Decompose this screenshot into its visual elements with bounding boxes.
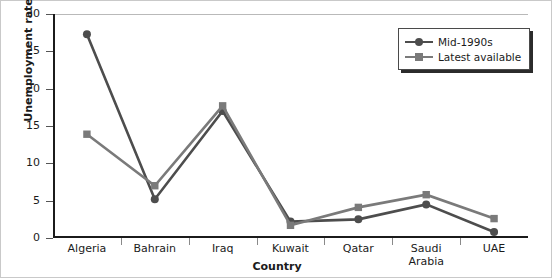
- data-point-circle: [490, 228, 498, 236]
- x-axis-title: Country: [1, 260, 552, 273]
- legend-item-series2: Latest available: [405, 49, 521, 64]
- y-tick: [46, 163, 53, 164]
- legend-label-series1: Mid-1990s: [438, 36, 493, 48]
- y-tick-label: 15: [16, 121, 40, 131]
- y-tick: [46, 51, 53, 52]
- legend-swatch-square: [405, 51, 433, 63]
- y-tick-label: 0: [16, 233, 40, 243]
- y-tick-label: 30: [16, 9, 40, 19]
- data-point-square: [83, 131, 90, 138]
- x-tick-label: Bahrain: [121, 243, 189, 256]
- data-point-circle: [151, 195, 159, 203]
- data-point-square: [287, 222, 294, 229]
- y-tick: [46, 238, 53, 239]
- y-tick-label: 20: [16, 84, 40, 94]
- y-tick: [46, 201, 53, 202]
- data-point-circle: [422, 200, 430, 208]
- x-tick-label: Iraq: [189, 243, 257, 256]
- y-tick-label: 10: [16, 158, 40, 168]
- data-point-circle: [83, 30, 91, 38]
- y-tick: [46, 14, 53, 15]
- data-point-circle: [354, 215, 362, 223]
- x-tick-label: Algeria: [53, 243, 121, 256]
- data-point-square: [151, 182, 158, 189]
- x-tick-label: Kuwait: [257, 243, 325, 256]
- chart-legend: Mid-1990s Latest available: [398, 28, 530, 70]
- y-tick: [46, 126, 53, 127]
- y-tick-label: 5: [16, 196, 40, 206]
- legend-swatch-circle: [405, 36, 433, 48]
- legend-item-series1: Mid-1990s: [405, 34, 521, 49]
- square-marker-icon: [415, 53, 423, 61]
- data-point-square: [423, 191, 430, 198]
- data-point-square: [219, 102, 226, 109]
- data-point-square: [355, 204, 362, 211]
- data-point-square: [490, 215, 497, 222]
- y-tick-label: 25: [16, 46, 40, 56]
- x-tick-label: Qatar: [324, 243, 392, 256]
- chart-figure: Unemployment rate (%) Country 0510152025…: [0, 0, 552, 278]
- legend-label-series2: Latest available: [438, 51, 521, 63]
- y-tick: [46, 89, 53, 90]
- x-tick-label: UAE: [460, 243, 528, 256]
- circle-marker-icon: [415, 38, 423, 46]
- x-tick-label: Saudi Arabia: [392, 243, 460, 268]
